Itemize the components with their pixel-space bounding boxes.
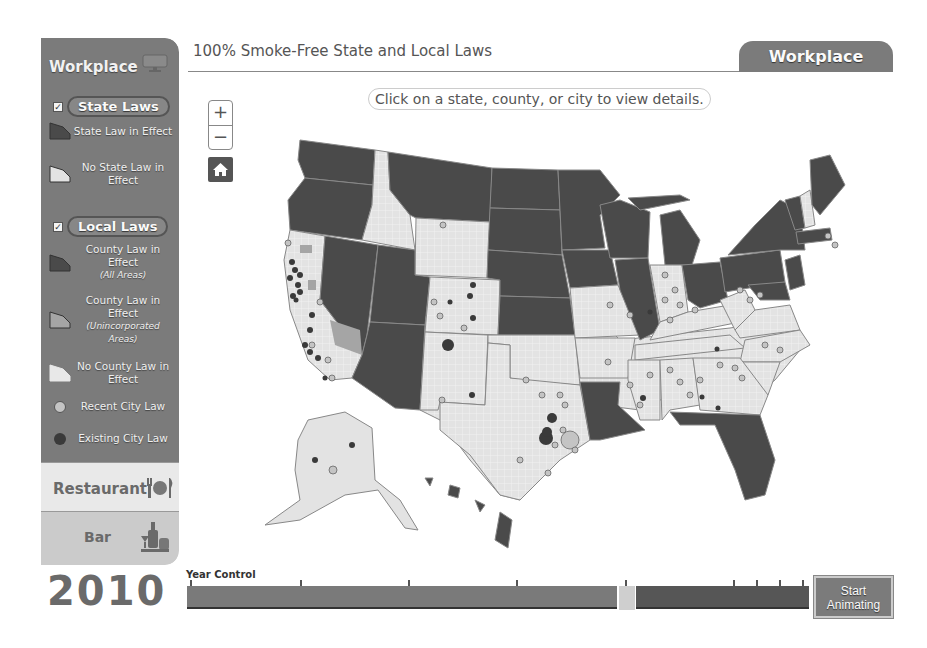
no-state-law-swatch — [49, 165, 71, 183]
sidebar: Workplace ✓ State Laws State Law in Effe… — [41, 38, 179, 565]
slider-tick — [408, 580, 410, 586]
tab-restaurant[interactable]: Restaurant — [41, 462, 179, 512]
legend-label: No State Law in Effect — [71, 161, 175, 187]
state-hawaii — [495, 512, 512, 548]
tab-bar[interactable]: Bar — [41, 512, 179, 565]
state-south-dakota — [488, 208, 562, 255]
legend-label: County Law in Effect(All Areas) — [71, 243, 175, 282]
tab-bar-label: Bar — [84, 529, 111, 545]
legend-label: Recent City Law — [71, 400, 175, 413]
legend-label: Existing City Law — [71, 432, 175, 445]
recent-city-dot-icon — [54, 401, 66, 413]
tab-restaurant-label: Restaurant — [53, 480, 147, 498]
state-laws-checkbox[interactable]: ✓ — [53, 102, 63, 112]
no-county-swatch — [49, 364, 71, 382]
state-north-dakota — [490, 168, 560, 210]
slider-tick — [300, 580, 302, 586]
state-hawaii-islands — [425, 478, 485, 512]
legend-county-all: County Law in Effect(All Areas) — [49, 243, 175, 282]
slider-tick — [756, 580, 758, 586]
home-button[interactable] — [208, 157, 233, 182]
state-michigan — [660, 210, 700, 265]
current-year: 2010 — [47, 568, 166, 614]
zoom-out-button[interactable]: − — [209, 125, 232, 149]
legend-state-law: State Law in Effect — [49, 122, 175, 140]
state-mississippi — [628, 360, 660, 420]
map-hint: Click on a state, county, or city to vie… — [368, 88, 711, 110]
zoom-controls: + − — [208, 100, 233, 150]
state-laws-header: ✓ State Laws — [53, 96, 170, 117]
start-animating-button[interactable]: Start Animating — [814, 576, 893, 618]
start-label: Start — [841, 584, 866, 598]
legend-recent-city: Recent City Law — [49, 400, 175, 413]
year-slider[interactable] — [187, 586, 809, 609]
legend-label: No County Law in Effect — [71, 360, 175, 386]
state-michigan-up — [628, 195, 690, 210]
slider-tick — [516, 580, 518, 586]
slider-tick — [190, 580, 192, 586]
state-kansas — [498, 296, 575, 335]
slider-track-past — [187, 586, 617, 609]
zoom-in-button[interactable]: + — [209, 101, 232, 125]
legend-county-unincorp: County Law in Effect(Unincorporated Area… — [49, 294, 175, 346]
legend-existing-city: Existing City Law — [49, 432, 175, 445]
sidebar-title: Workplace — [49, 58, 138, 76]
county-all-swatch — [49, 254, 71, 272]
sidebar-legend-panel: Workplace ✓ State Laws State Law in Effe… — [41, 38, 179, 462]
state-maine — [810, 155, 845, 215]
state-maryland-delaware — [748, 282, 790, 300]
slider-tick — [779, 580, 781, 586]
state-wyoming — [415, 218, 490, 278]
year-control-label: Year Control — [186, 569, 256, 580]
home-icon — [208, 157, 233, 182]
page-title: 100% Smoke-Free State and Local Laws — [193, 42, 492, 60]
slider-tick — [733, 580, 735, 586]
state-florida — [670, 412, 775, 500]
restaurant-icon — [145, 476, 175, 500]
animating-label: Animating — [827, 598, 880, 612]
local-laws-pill[interactable]: Local Laws — [67, 216, 168, 237]
local-laws-checkbox[interactable]: ✓ — [53, 222, 63, 232]
state-alaska — [265, 412, 418, 530]
legend-label: State Law in Effect — [71, 125, 175, 138]
slider-track-future — [636, 586, 809, 609]
state-new-mexico — [420, 332, 488, 410]
state-new-jersey — [785, 255, 805, 290]
existing-city-dot-icon — [54, 433, 66, 445]
legend-label: County Law in Effect(Unincorporated Area… — [71, 294, 175, 346]
legend-no-county: No County Law in Effect — [49, 360, 175, 386]
us-map[interactable] — [255, 112, 855, 552]
state-arkansas — [575, 338, 635, 378]
slider-thumb[interactable] — [619, 586, 635, 610]
slider-tick — [802, 580, 804, 586]
state-oregon — [288, 178, 373, 240]
county-unincorp-swatch — [49, 311, 71, 329]
bar-icon — [139, 520, 171, 554]
tab-workplace-active[interactable]: Workplace — [739, 41, 893, 72]
state-laws-pill[interactable]: State Laws — [67, 96, 170, 117]
local-laws-header: ✓ Local Laws — [53, 216, 168, 237]
monitor-icon — [142, 54, 168, 72]
state-law-swatch — [49, 122, 71, 140]
legend-no-state-law: No State Law in Effect — [49, 161, 175, 187]
